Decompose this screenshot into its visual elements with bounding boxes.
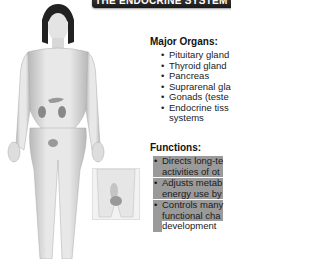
- function-line: activities of ot: [162, 167, 223, 178]
- list-item: Controls many functional cha development: [153, 200, 223, 232]
- banner-title: THE ENDOCRINE SYSTEM: [95, 0, 228, 6]
- list-item: Directs long-te activities of ot: [153, 156, 223, 177]
- function-line: energy use by: [162, 189, 223, 200]
- list-item: Pancreas: [160, 71, 231, 82]
- list-item: Adjusts metab energy use by: [153, 178, 223, 199]
- major-organs-list: Pituitary gland Thyroid gland Pancreas S…: [160, 50, 231, 124]
- list-item: systems: [160, 113, 231, 124]
- functions-list: Directs long-te activities of ot Adjusts…: [153, 156, 223, 233]
- title-banner: THE ENDOCRINE SYSTEM: [92, 0, 231, 8]
- list-item: Pituitary gland: [160, 50, 231, 61]
- major-organs-heading: Major Organs:: [150, 36, 218, 47]
- function-line: development: [162, 221, 223, 232]
- male-gonads-inset: [92, 168, 140, 220]
- function-line: Adjusts metab: [162, 178, 223, 189]
- list-item-continuation: systems: [169, 112, 204, 123]
- list-item: Gonads (teste: [160, 92, 231, 103]
- function-line: Controls many: [162, 200, 223, 211]
- function-line: Directs long-te: [162, 156, 223, 167]
- functions-heading: Functions:: [150, 142, 201, 153]
